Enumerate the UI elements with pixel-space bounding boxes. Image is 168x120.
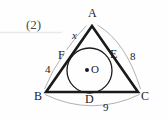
point-label-e: E [110,48,117,60]
vertex-label-a: A [88,7,97,19]
geometry-figure: (2) A B C D E F O x 4 8 9 [0,0,168,120]
vertex-label-b: B [34,90,42,102]
measure-label-bc: 9 [103,102,109,113]
measure-label-fb: 4 [45,64,51,75]
measure-label-ec: 8 [130,51,136,62]
vertex-label-c: C [141,90,149,102]
problem-index: (2) [26,18,41,31]
point-label-d: D [85,93,94,105]
incenter-label-o: O [91,64,99,75]
point-label-f: F [58,49,65,61]
incenter-dot [85,68,89,72]
incircle [67,48,112,93]
measure-label-x: x [72,30,77,41]
